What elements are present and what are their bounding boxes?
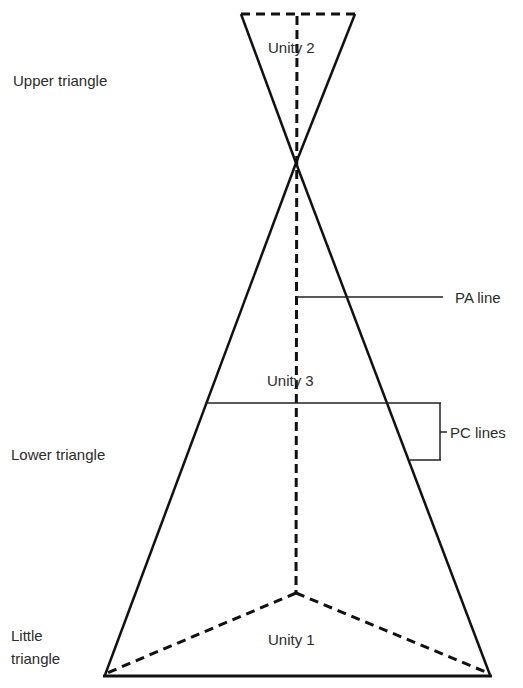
label-lower-triangle: Lower triangle [11,446,105,464]
label-little-triangle-line2: triangle [11,650,60,668]
label-upper-triangle: Upper triangle [13,72,107,90]
lower-left-edge [105,163,296,675]
label-little-triangle-line1: Little [11,627,43,645]
lower-right-edge [296,163,490,675]
label-pc-lines: PC lines [450,424,506,442]
central-dashed-axis [296,16,297,593]
label-unity-3: Unity 3 [267,372,314,390]
label-pa-line: PA line [455,289,501,307]
upper-right-edge [296,14,355,163]
triangle-diagram [0,0,523,688]
label-unity-1: Unity 1 [268,631,315,649]
upper-left-edge [241,14,296,163]
little-triangle-right-edge [296,593,488,673]
label-unity-2: Unity 2 [268,39,315,57]
